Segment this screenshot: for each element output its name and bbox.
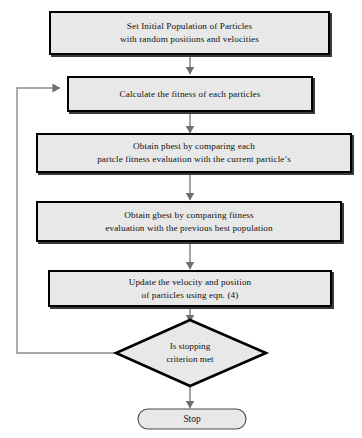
flowchart-canvas: Set Initial Population of Particles with… — [0, 0, 362, 438]
node-calculate-fitness: Calculate the fitness of each particles — [67, 76, 313, 112]
node-set-initial-population: Set Initial Population of Particles with… — [49, 11, 330, 55]
node-label-calculate-fitness: Calculate the fitness of each particles — [116, 88, 265, 101]
node-obtain-gbest: Obtain gbest by comparing fitness evalua… — [36, 201, 342, 242]
node-update-velocity-position: Update the velocity and position of part… — [48, 270, 332, 307]
node-label-set-initial-population: Set Initial Population of Particles with… — [116, 20, 263, 46]
node-label-obtain-gbest: Obtain gbest by comparing fitness evalua… — [101, 209, 276, 235]
node-label-obtain-pbest: Obtain pbest by comparing each partcle f… — [93, 140, 295, 166]
terminal-shape-stop — [138, 409, 246, 429]
node-obtain-pbest: Obtain pbest by comparing each partcle f… — [36, 133, 352, 173]
node-label-update-velocity-position: Update the velocity and position of part… — [125, 276, 256, 302]
decision-shape-stopping-criterion — [116, 320, 266, 386]
